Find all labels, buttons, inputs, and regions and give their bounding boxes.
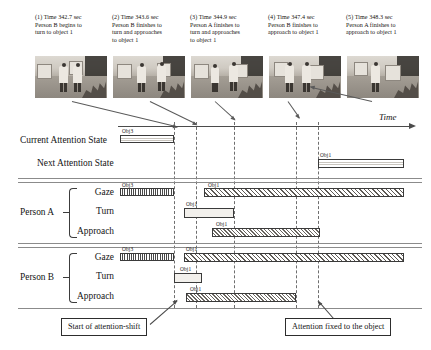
bar-person-a-gaze-obj3 (120, 188, 174, 196)
section-divider (18, 178, 422, 179)
event-line-5 (318, 122, 319, 308)
caption-3: (3) Time 344.9 sec Person A finishes to … (190, 14, 268, 44)
caption-1-line1: (1) Time 342.7 sec (35, 14, 111, 22)
video-frame-1 (35, 56, 107, 98)
frame-object-panel (309, 65, 324, 80)
track-label-person-a-approach: Approach (56, 226, 114, 236)
track-label-person-b-turn: Turn (66, 271, 114, 281)
figure-canvas: (1) Time 342.7 sec Person B begins to tu… (0, 0, 431, 350)
caption-4-line3: approach to object 1 (268, 29, 346, 37)
bar-person-a-approach-obj1 (212, 228, 320, 237)
frame-object-panel (194, 64, 209, 79)
frame-person-a (371, 65, 380, 83)
bar-current-attention-obj3 (120, 135, 174, 143)
caption-1-line2: Person B begins to (35, 22, 111, 30)
caption-5-line1: (5) Time 348.3 sec (346, 14, 426, 22)
row-label-next-attention-state: Next Attention State (37, 158, 114, 168)
caption-5-line2: Person A finishes to (346, 22, 426, 30)
track-label-person-b-approach: Approach (56, 291, 114, 301)
event-line-4 (296, 122, 297, 308)
track-label-person-a-gaze: Gaze (66, 187, 114, 197)
frame-person-a (211, 67, 219, 83)
video-frame-2 (113, 56, 185, 98)
caption-3-line3: turn and approaches (190, 29, 268, 37)
caption-4: (4) Time 347.4 sec Person B finishes to … (268, 14, 346, 37)
caption-2-line3: turn and approaches (112, 29, 190, 37)
time-axis-arrowhead (409, 123, 416, 129)
row-label-current-attention-state: Current Attention State (20, 135, 107, 145)
event-arrow-4 (288, 101, 300, 118)
caption-4-line1: (4) Time 347.4 sec (268, 14, 346, 22)
track-label-person-a-turn: Turn (66, 206, 114, 216)
bar-person-a-gaze-obj1 (204, 188, 404, 197)
frame-person-b (157, 65, 166, 82)
video-frame-3 (191, 56, 263, 98)
time-axis-label: Time (379, 112, 397, 122)
caption-3-line4: to object 1 (190, 37, 268, 45)
obj-label-b-gaze-obj1: Obj1 (186, 246, 197, 252)
obj-label-next-state: Obj1 (320, 152, 331, 158)
callout-attention-fixed: Attention fixed to the object (285, 318, 391, 336)
event-arrow-1 (72, 101, 177, 127)
section-divider (18, 182, 422, 183)
event-arrow-3 (215, 101, 236, 120)
frame-person-a (285, 65, 294, 83)
obj-label-a-turn-obj1: Obj1 (186, 201, 197, 207)
group-label-person-b: Person B (20, 272, 54, 282)
section-divider (18, 247, 422, 248)
obj-label-b-gaze-obj3: Obj3 (122, 246, 133, 252)
section-divider (18, 308, 422, 309)
frame-object-panel (354, 62, 368, 76)
obj-label-b-approach-obj1: Obj1 (190, 286, 201, 292)
frame-person-b (229, 65, 238, 82)
frame-shadow (85, 56, 107, 76)
section-divider (18, 243, 422, 244)
frame-object-panel (37, 64, 52, 79)
event-line-3 (234, 122, 235, 308)
track-label-person-b-gaze: Gaze (66, 252, 114, 262)
obj-label-b-turn-obj1: Obj1 (180, 266, 191, 272)
frame-person-b (73, 66, 82, 83)
time-axis (118, 126, 410, 127)
bar-person-a-turn-obj1 (184, 208, 234, 218)
caption-2: (2) Time 343.6 sec Person B finishes to … (112, 14, 190, 44)
callout-start-of-attention-shift: Start of attention-shift (61, 318, 147, 336)
caption-5: (5) Time 348.3 sec Person A finishes to … (346, 14, 426, 37)
bar-person-b-gaze-obj3 (120, 253, 174, 261)
caption-5-line3: approach to object 1 (346, 29, 426, 37)
caption-3-line2: Person A finishes to (190, 22, 268, 30)
caption-1-line3: turn to object 1 (35, 29, 111, 37)
frame-person-a (137, 66, 146, 83)
caption-1: (1) Time 342.7 sec Person B begins to tu… (35, 14, 111, 37)
callout-arrow-start (150, 301, 178, 325)
obj-label-current-state: Obj3 (122, 128, 133, 134)
bar-person-b-gaze-obj1 (184, 253, 404, 262)
video-frame-5 (347, 56, 419, 98)
frame-object-panel (117, 64, 132, 79)
caption-3-line1: (3) Time 344.9 sec (190, 14, 268, 22)
caption-2-line1: (2) Time 343.6 sec (112, 14, 190, 22)
bar-next-attention-obj1 (318, 159, 404, 168)
group-label-person-a: Person A (20, 207, 54, 217)
bar-person-b-approach-obj1 (186, 293, 296, 302)
frame-person-b (302, 65, 311, 83)
caption-2-line2: Person B finishes to (112, 22, 190, 30)
obj-label-a-approach-obj1: Obj1 (216, 221, 227, 227)
frame-person-a (59, 66, 68, 83)
caption-2-line4: to object 1 (112, 37, 190, 45)
bar-person-b-turn-obj1 (174, 273, 202, 283)
caption-4-line2: Person B finishes to (268, 22, 346, 30)
frame-object-panel (385, 65, 401, 81)
